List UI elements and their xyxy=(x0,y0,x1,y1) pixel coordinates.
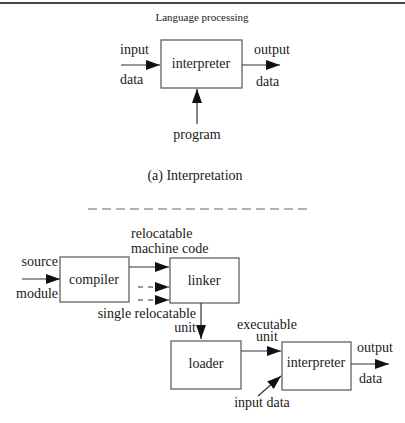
input-label: input xyxy=(120,42,149,57)
language-processing-diagram: Language processing interpreter input da… xyxy=(0,0,405,423)
caption-a: (a) Interpretation xyxy=(147,168,242,184)
loader-label: loader xyxy=(189,356,224,371)
relocatable-label: relocatable xyxy=(131,226,192,241)
header-title: Language processing xyxy=(155,11,249,23)
module-label: module xyxy=(16,286,58,301)
machine-code-label: machine code xyxy=(131,241,208,256)
single-relocatable-label: single relocatable xyxy=(98,306,196,321)
output-data-label: data xyxy=(256,74,280,89)
linker-label: linker xyxy=(188,273,221,288)
program-label: program xyxy=(173,127,221,142)
source-label: source xyxy=(21,254,58,269)
interpreter-label-b: interpreter xyxy=(287,355,346,370)
part-b-compilation: compiler source module relocatable machi… xyxy=(16,226,393,410)
interpreter-label: interpreter xyxy=(172,56,231,71)
input-data-label-b: input data xyxy=(234,395,290,410)
compiler-label: compiler xyxy=(69,272,119,287)
output-label-b: output xyxy=(357,340,393,355)
executable-unit-label: unit xyxy=(256,329,278,344)
input-data-label: data xyxy=(120,72,144,87)
single-unit-label: unit xyxy=(174,320,196,335)
input-data-arrow xyxy=(258,376,281,396)
part-a-interpretation: interpreter input data output data progr… xyxy=(120,40,290,184)
output-label: output xyxy=(254,42,290,57)
output-data-label-b: data xyxy=(359,371,383,386)
